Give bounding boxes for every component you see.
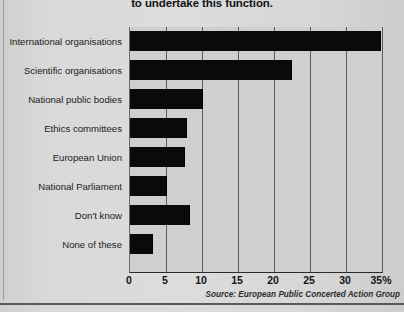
category-axis-labels: International organisationsScientific or… [0, 27, 126, 272]
x-tick-label: 25 [303, 274, 315, 286]
bottom-border-rule [0, 303, 404, 305]
x-tick-label: 20 [267, 274, 279, 286]
bar [130, 147, 185, 167]
category-label: European Union [53, 143, 122, 172]
gridline-35 [382, 27, 383, 272]
bar [130, 205, 190, 225]
bar-row [130, 201, 382, 230]
category-label: National Parliament [38, 172, 122, 201]
x-tick-label: 30 [339, 274, 351, 286]
bar-row [130, 27, 382, 56]
chart-title: to undertake this function. [0, 0, 404, 9]
x-tick-label: 15 [231, 274, 243, 286]
bar-row [130, 143, 382, 172]
bar [130, 31, 381, 51]
x-tick-label: 0 [126, 274, 132, 286]
category-label: Scientific organisations [24, 56, 122, 85]
bar [130, 60, 292, 80]
bar-row [130, 56, 382, 85]
bar [130, 118, 187, 138]
x-tick-label: 35% [370, 274, 391, 286]
source-note: Source: European Public Concerted Action… [206, 290, 400, 299]
category-label: Ethics committees [44, 114, 122, 143]
bar [130, 234, 153, 254]
bar-row [130, 85, 382, 114]
bar [130, 176, 167, 196]
category-label: National public bodies [28, 85, 122, 114]
category-label: International organisations [9, 27, 122, 56]
bar-row [130, 172, 382, 201]
x-tick-label: 10 [195, 274, 207, 286]
category-label: None of these [62, 230, 122, 259]
plot-area [129, 27, 383, 273]
bar-series [130, 27, 382, 272]
category-label: Don't know [75, 201, 122, 230]
bar-row [130, 114, 382, 143]
x-axis-tick-labels: 05101520253035% [129, 274, 383, 288]
x-tick-label: 5 [162, 274, 168, 286]
bar [130, 89, 203, 109]
bar-row [130, 230, 382, 259]
